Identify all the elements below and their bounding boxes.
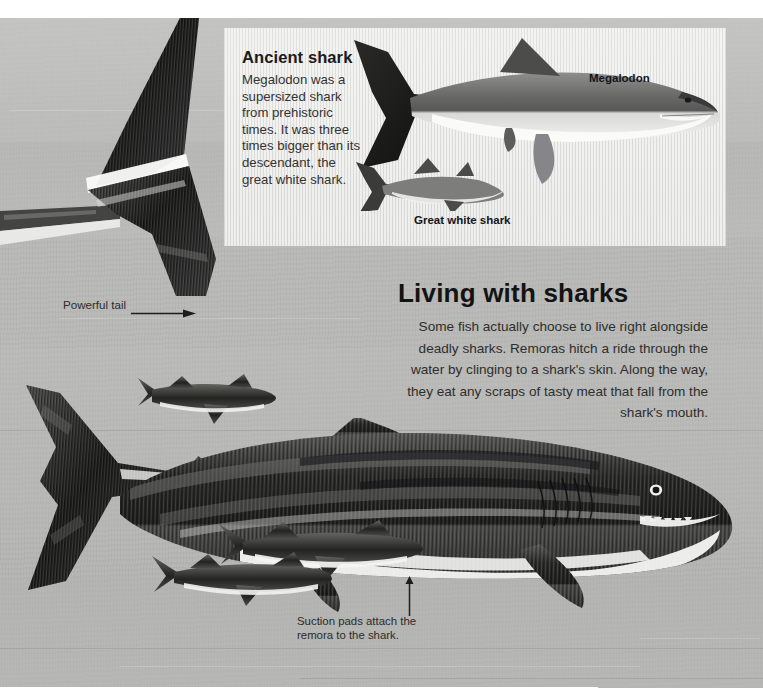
callout-suction-line1: Suction pads attach the: [297, 615, 416, 627]
callout-powerful-tail: Powerful tail: [63, 298, 126, 311]
megalodon-photo: [352, 36, 726, 211]
shark-eye: [650, 484, 662, 495]
page-canvas: Ancient shark Megalodon was a supersized…: [0, 0, 763, 698]
paper-streak: [300, 678, 763, 679]
remora-fish: [148, 552, 334, 608]
page-bottom-margin: [0, 687, 598, 698]
callout-suction-line2: remora to the shark.: [297, 629, 399, 641]
paper-streak: [60, 318, 360, 319]
paper-streak: [120, 666, 640, 667]
shark-upper-tail-fin: [56, 4, 232, 296]
inset-body-text: Megalodon was a supersized shark from pr…: [242, 72, 366, 188]
arrow-up-icon: [404, 576, 415, 616]
body-text: Some fish actually choose to live right …: [386, 316, 708, 424]
callout-suction-pads: Suction pads attach the remora to the sh…: [297, 614, 416, 642]
label-megalodon: Megalodon: [589, 72, 650, 84]
paper-streak: [640, 638, 760, 639]
label-great-white-shark: Great white shark: [414, 214, 511, 226]
paper-streak: [0, 648, 763, 649]
page-top-margin: [0, 0, 763, 18]
page-title: Living with sharks: [398, 278, 628, 309]
remora-fish: [132, 372, 278, 426]
great-white-shark-photo: [356, 158, 504, 211]
ancient-shark-inset: Ancient shark Megalodon was a supersized…: [224, 28, 726, 246]
inset-heading: Ancient shark: [242, 48, 352, 67]
arrow-right-icon: [131, 309, 196, 318]
